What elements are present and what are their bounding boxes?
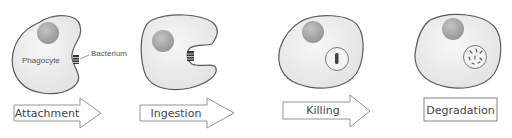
bacterium-icon: [73, 55, 79, 64]
phagocyte-cell: [141, 15, 217, 90]
step-box-degradation: Degradation: [424, 98, 497, 121]
nucleus: [302, 21, 324, 43]
bacterium-icon: [187, 51, 194, 61]
stage-killing: Killing: [279, 16, 370, 127]
nucleus: [442, 18, 464, 40]
phagocyte-label: Phagocyte: [22, 56, 60, 65]
step-label: Attachment: [15, 107, 80, 120]
stage-ingestion: Ingestion: [140, 15, 234, 128]
step-label: Ingestion: [151, 107, 202, 120]
step-arrow-killing: Killing: [283, 95, 370, 127]
stage-attachment: Phagocyte Bacterium Attachment: [12, 16, 127, 128]
bacterium-icon: [335, 53, 339, 64]
bacterium-pointer: [80, 55, 89, 59]
step-label: Killing: [306, 104, 339, 117]
phagocytosis-diagram: Phagocyte Bacterium Attachment Ingestion: [0, 0, 512, 138]
step-label: Degradation: [426, 104, 494, 117]
step-arrow-attachment: Attachment: [14, 98, 101, 128]
step-arrow-ingestion: Ingestion: [140, 98, 234, 128]
bacterium-label: Bacterium: [91, 49, 127, 58]
stage-degradation: Degradation: [415, 14, 501, 121]
nucleus: [152, 30, 174, 52]
nucleus: [37, 22, 59, 44]
